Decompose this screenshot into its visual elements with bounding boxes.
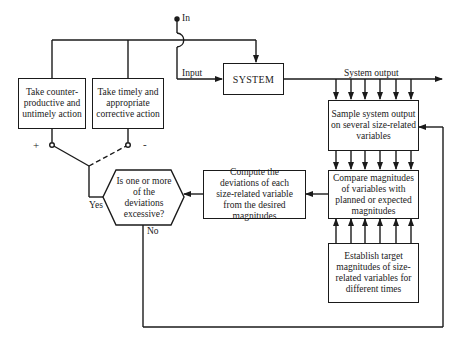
system-box-label: SYSTEM bbox=[233, 74, 274, 85]
compare-magnitudes-label: Compare magnitudes of variables with pla… bbox=[331, 173, 416, 217]
sample-output-label: Sample system output on several size-rel… bbox=[331, 109, 416, 142]
counterproductive-action-label: Take counter-productive and untimely act… bbox=[21, 87, 83, 120]
corrective-action-label: Take timely and appropriate corrective a… bbox=[95, 87, 161, 120]
plus-label: + bbox=[33, 140, 39, 151]
compare-magnitudes-box: Compare magnitudes of variables with pla… bbox=[328, 170, 419, 219]
decision-label-wrap: Is one or more of the deviations excessi… bbox=[116, 172, 172, 224]
yes-label: Yes bbox=[89, 200, 103, 211]
corrective-action-box: Take timely and appropriate corrective a… bbox=[92, 78, 164, 129]
decision-label: Is one or more of the deviations excessi… bbox=[116, 176, 172, 220]
establish-targets-box: Establish target magnitudes of size-rela… bbox=[328, 243, 419, 303]
system-output-label: System output bbox=[344, 68, 399, 79]
system-box: SYSTEM bbox=[223, 63, 284, 95]
minus-label: - bbox=[143, 139, 147, 150]
no-label: No bbox=[147, 226, 159, 237]
compute-deviations-label: Compute the deviations of each size-rela… bbox=[210, 167, 299, 222]
input-label: Input bbox=[182, 68, 202, 79]
sample-output-box: Sample system output on several size-rel… bbox=[328, 100, 419, 151]
in-label: In bbox=[182, 13, 190, 24]
establish-targets-label: Establish target magnitudes of size-rela… bbox=[331, 251, 416, 295]
counterproductive-action-box: Take counter-productive and untimely act… bbox=[18, 78, 86, 129]
compute-deviations-box: Compute the deviations of each size-rela… bbox=[203, 170, 306, 219]
